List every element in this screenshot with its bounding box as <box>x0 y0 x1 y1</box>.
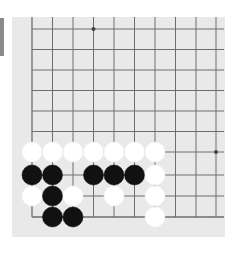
star-point <box>214 150 218 154</box>
star-point <box>92 27 96 31</box>
white-stone[interactable] <box>104 186 124 206</box>
white-stone[interactable] <box>145 165 165 185</box>
white-stone[interactable] <box>104 142 124 162</box>
black-stone[interactable] <box>104 165 124 185</box>
black-stone[interactable] <box>22 165 42 185</box>
board-grid[interactable] <box>0 0 242 254</box>
white-stone[interactable] <box>63 186 83 206</box>
white-stone[interactable] <box>145 186 165 206</box>
white-stone[interactable] <box>43 142 63 162</box>
black-stone[interactable] <box>43 186 63 206</box>
black-stone[interactable] <box>63 207 83 227</box>
white-stone[interactable] <box>125 142 145 162</box>
black-stone[interactable] <box>43 165 63 185</box>
black-stone[interactable] <box>125 165 145 185</box>
white-stone[interactable] <box>22 186 42 206</box>
black-stone[interactable] <box>84 165 104 185</box>
white-stone[interactable] <box>63 142 83 162</box>
white-stone[interactable] <box>84 142 104 162</box>
white-stone[interactable] <box>145 207 165 227</box>
white-stone[interactable] <box>22 142 42 162</box>
black-stone[interactable] <box>43 207 63 227</box>
white-stone[interactable] <box>145 142 165 162</box>
